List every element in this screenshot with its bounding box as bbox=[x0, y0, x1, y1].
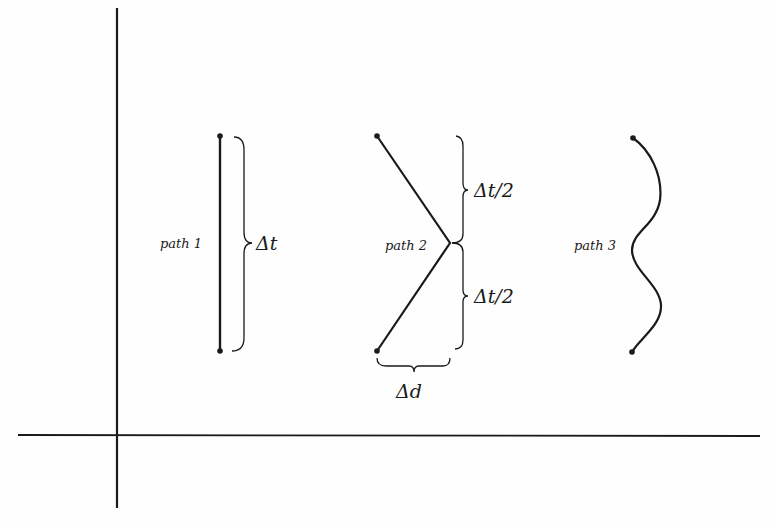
horizontal-axis bbox=[18, 435, 760, 436]
path-1-start-dot bbox=[217, 133, 223, 139]
path-2-start-dot bbox=[374, 133, 380, 139]
path-2-lower-brace bbox=[452, 243, 468, 349]
delta-t-label: Δt bbox=[255, 232, 278, 254]
path-2-end-dot bbox=[374, 348, 380, 354]
path-2: path 2 Δt/2 Δt/2 Δd bbox=[374, 133, 514, 402]
path-3: path 3 bbox=[574, 135, 661, 355]
path-1-brace bbox=[232, 137, 252, 351]
delta-d-label: Δd bbox=[395, 380, 422, 402]
path-2-label: path 2 bbox=[385, 238, 427, 253]
delta-t-half-upper-label: Δt/2 bbox=[473, 179, 514, 201]
path-3-label: path 3 bbox=[574, 238, 616, 253]
path-1-label: path 1 bbox=[160, 236, 202, 251]
path-3-curve bbox=[632, 138, 661, 352]
diagram-svg: path 1 Δt path 2 Δt/2 Δt/2 Δd path 3 bbox=[0, 0, 775, 527]
spacetime-diagram: path 1 Δt path 2 Δt/2 Δt/2 Δd path 3 bbox=[0, 0, 775, 527]
path-1: path 1 Δt bbox=[160, 133, 278, 354]
path-3-end-dot bbox=[629, 349, 635, 355]
path-2-upper-brace bbox=[452, 136, 468, 243]
path-3-start-dot bbox=[630, 135, 636, 141]
path-2-bottom-brace bbox=[377, 358, 450, 372]
delta-t-half-lower-label: Δt/2 bbox=[473, 285, 514, 307]
path-1-end-dot bbox=[217, 348, 223, 354]
